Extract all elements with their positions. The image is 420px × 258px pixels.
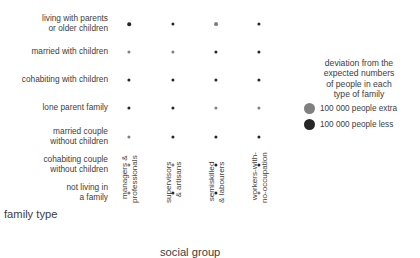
column-label: semiskilled& labourers [207, 162, 226, 203]
bubble [214, 78, 217, 81]
bubble [257, 22, 260, 25]
bubble [257, 78, 260, 81]
bubble [257, 106, 260, 109]
legend-swatch-circle-icon [304, 119, 315, 130]
bubble [127, 50, 130, 53]
column-label: workers-with-no-occupation [250, 152, 269, 203]
bubble [257, 135, 260, 138]
y-axis-title: family type [4, 208, 57, 220]
legend-entry: 100 000 people extra [300, 102, 418, 116]
bubble [171, 106, 174, 109]
bubble [171, 22, 174, 25]
row-label: cohabiting with children [0, 75, 108, 85]
bubble [171, 50, 174, 53]
row-label: cohabiting couplewithout children [0, 155, 108, 175]
legend: deviation from the expected numbers of p… [300, 58, 418, 132]
column-label: supervisors& artisans [164, 162, 183, 203]
bubble [257, 50, 260, 53]
bubble [214, 50, 217, 53]
legend-entries: 100 000 people extra100 000 people less [300, 102, 418, 132]
bubble [171, 78, 174, 81]
column-label: managers &professionals [120, 155, 139, 203]
legend-entry: 100 000 people less [300, 118, 418, 132]
row-label: not living ina family [0, 183, 108, 203]
bubble [127, 78, 130, 81]
legend-label: 100 000 people extra [320, 103, 397, 114]
legend-title: deviation from the expected numbers of p… [300, 58, 418, 100]
bubble [127, 22, 131, 26]
x-axis-title: social group [160, 246, 220, 258]
bubble [214, 106, 217, 109]
legend-label: 100 000 people less [320, 119, 393, 130]
row-label: lone parent family [0, 103, 108, 113]
row-label: living with parentsor older children [0, 14, 108, 34]
bubble [214, 135, 217, 138]
bubble [171, 135, 174, 138]
bubble [127, 106, 130, 109]
legend-swatch-circle-icon [304, 103, 315, 114]
row-label: married couplewithout children [0, 127, 108, 147]
bubble [127, 135, 130, 138]
bubble [214, 22, 218, 26]
row-label: married with children [0, 47, 108, 57]
